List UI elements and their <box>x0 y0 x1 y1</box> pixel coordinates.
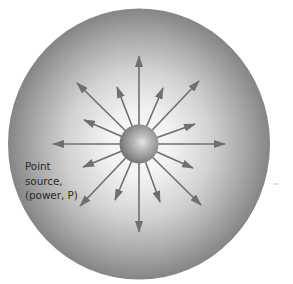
point-source-diagram <box>0 0 293 284</box>
label-line-1: Point <box>25 159 78 174</box>
point-source-sphere <box>120 125 159 164</box>
label-line-3: (power, P) <box>25 188 78 203</box>
point-source-label: Point source, (power, P) <box>25 159 78 203</box>
label-line-2: source, <box>25 174 78 189</box>
